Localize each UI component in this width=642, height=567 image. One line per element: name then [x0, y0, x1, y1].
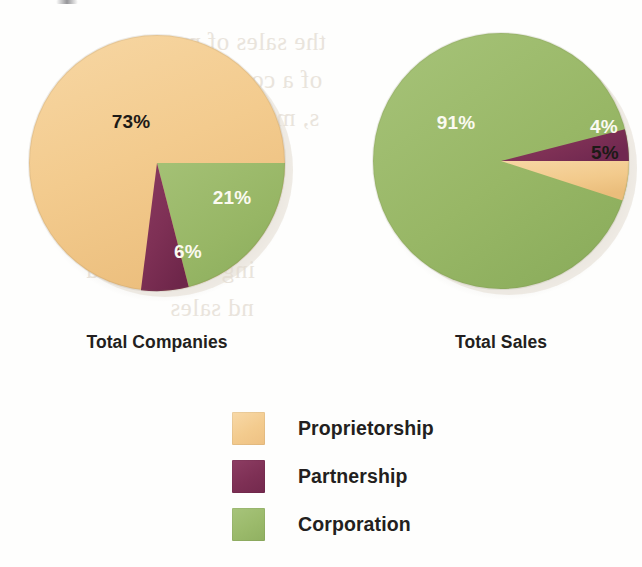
legend-label-partnership: Partnership	[298, 465, 407, 488]
legend-item-corporation: Corporation	[232, 500, 434, 548]
legend-label-proprietorship: Proprietorship	[298, 417, 434, 440]
legend-item-proprietorship: Proprietorship	[232, 404, 434, 452]
pie-chart-total-sales	[361, 21, 642, 311]
legend-item-partnership: Partnership	[232, 452, 434, 500]
pie-2-svg	[361, 21, 642, 311]
pie-1-svg	[17, 23, 307, 313]
legend-swatch-proprietorship	[232, 412, 265, 445]
pie-1-slice-label-corporation: 21%	[213, 187, 252, 209]
legend-swatch-corporation	[232, 508, 265, 541]
pie-1-caption: Total Companies	[47, 332, 267, 353]
pie-1-slice-label-partnership: 6%	[174, 241, 202, 263]
legend-swatch-partnership	[232, 460, 265, 493]
pie-2-slice-label-partnership: 4%	[590, 116, 618, 138]
pie-2-slice-label-corporation: 91%	[437, 112, 476, 134]
pie-chart-total-companies	[17, 23, 307, 313]
chart-legend: Proprietorship Partnership Corporation	[232, 404, 434, 548]
legend-label-corporation: Corporation	[298, 513, 411, 536]
pie-2-caption: Total Sales	[401, 332, 601, 353]
pie-1-slice-label-proprietorship: 73%	[112, 111, 151, 133]
pie-2-slice-label-proprietorship: 5%	[591, 142, 619, 164]
